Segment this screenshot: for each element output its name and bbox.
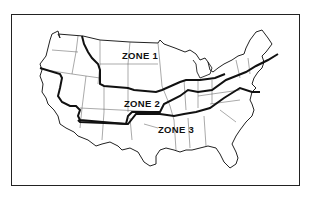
zone-1-label: ZONE 1 (122, 50, 158, 61)
zone-2-label: ZONE 2 (124, 98, 160, 109)
michigan-outline (193, 60, 212, 78)
zone-2-3-boundary (78, 88, 260, 124)
zone-3-label: ZONE 3 (158, 124, 194, 135)
